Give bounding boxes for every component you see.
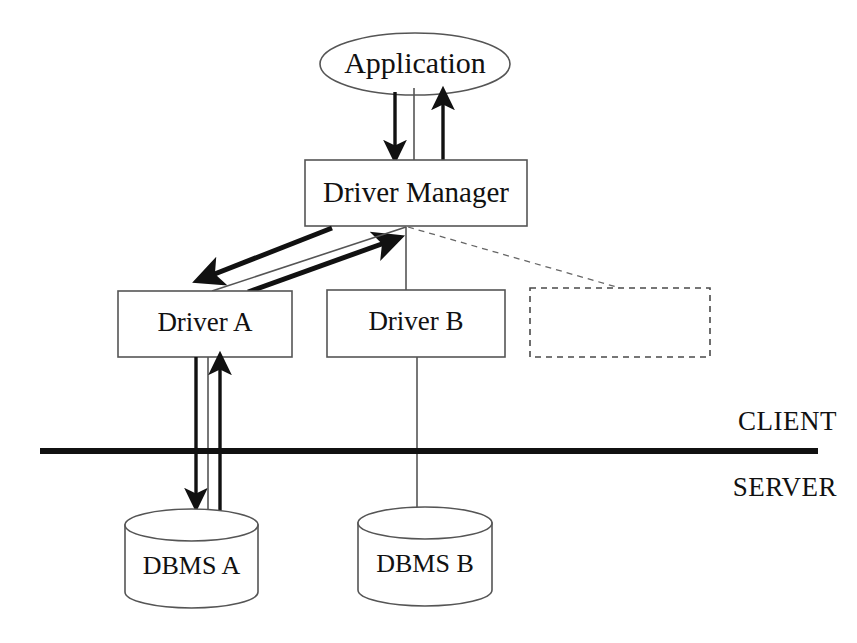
line-driver-manager-placeholder xyxy=(408,227,620,288)
application-label: Application xyxy=(344,46,486,79)
node-driver-a: Driver A xyxy=(118,291,292,357)
dbms-b-top xyxy=(358,507,492,539)
node-driver-manager: Driver Manager xyxy=(305,160,527,226)
driver-placeholder-rect xyxy=(530,288,710,357)
dbms-b-label: DBMS B xyxy=(376,549,474,578)
client-tier-label: CLIENT xyxy=(738,406,837,436)
driver-a-label: Driver A xyxy=(157,307,253,337)
node-driver-placeholder xyxy=(530,288,710,357)
odbc-architecture-diagram: Application Driver Manager xyxy=(0,0,857,643)
node-dbms-a: DBMS A xyxy=(125,509,258,608)
driver-manager-driver-a-connectors xyxy=(207,227,406,292)
driver-b-label: Driver B xyxy=(368,306,463,336)
server-tier-label: SERVER xyxy=(733,472,837,502)
driver-a-dbms-a-connectors xyxy=(196,357,220,515)
diagram-canvas: Application Driver Manager xyxy=(0,0,857,643)
node-dbms-b: DBMS B xyxy=(358,507,492,606)
dbms-a-top xyxy=(125,509,258,541)
arrow-driver-a-to-driver-manager xyxy=(248,241,390,292)
node-application: Application xyxy=(320,33,510,95)
application-driver-manager-connectors xyxy=(395,88,443,160)
dbms-a-label: DBMS A xyxy=(143,551,241,580)
driver-manager-label: Driver Manager xyxy=(323,176,509,208)
node-driver-b: Driver B xyxy=(327,290,505,357)
